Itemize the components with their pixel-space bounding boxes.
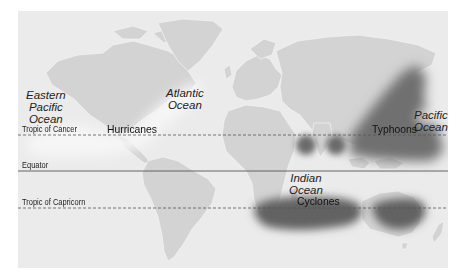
eastern-pacific-ocean-label: Eastern Pacific Ocean <box>26 89 66 125</box>
eastern-pacific-line2: Pacific <box>26 101 66 113</box>
cyclones-label: Cyclones <box>297 195 340 207</box>
atlantic-line1: Atlantic <box>166 87 204 99</box>
atlantic-ocean-label: Atlantic Ocean <box>166 87 204 111</box>
cyclone-zone <box>254 197 426 230</box>
indian-line1: Indian <box>289 172 323 184</box>
tropic-of-capricorn-label: Tropic of Capricorn <box>22 198 85 207</box>
equator-label: Equator <box>22 161 48 170</box>
map-graphics <box>18 11 448 268</box>
pacific-line1: Pacific <box>414 109 448 121</box>
typhoons-label: Typhoons <box>372 123 417 135</box>
pacific-ocean-label: Pacific Ocean <box>414 109 448 133</box>
atlantic-line2: Ocean <box>166 99 204 111</box>
eastern-pacific-line3: Ocean <box>26 113 66 125</box>
pacific-line2: Ocean <box>414 121 448 133</box>
eastern-pacific-line1: Eastern <box>26 89 66 101</box>
hurricanes-label: Hurricanes <box>107 123 157 135</box>
tropic-of-cancer-label: Tropic of Cancer <box>22 125 77 134</box>
indian-ocean-label: Indian Ocean <box>289 172 323 196</box>
world-map: Tropic of Cancer Equator Tropic of Capri… <box>18 11 448 268</box>
